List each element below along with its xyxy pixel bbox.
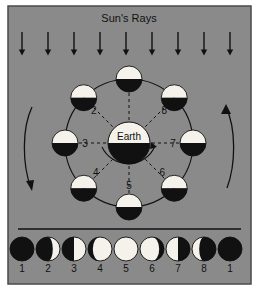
orbit-moon-6	[161, 175, 187, 201]
phase-waxing-gibbous	[88, 237, 112, 261]
orbit-moon-label-7: 7	[170, 138, 176, 149]
diagram-canvas: Sun's RaysEarth2345678123456781	[0, 0, 259, 290]
phase-new-moon	[10, 237, 34, 261]
phase-full-moon	[114, 237, 138, 261]
earth-label: Earth	[117, 131, 141, 142]
suns-rays-title: Sun's Rays	[101, 12, 157, 24]
phase-waning-gibbous	[140, 237, 164, 261]
orbit-moon-label-4: 4	[93, 167, 99, 178]
phase-label-4: 4	[97, 263, 103, 274]
orbit-moon-5	[116, 194, 142, 220]
orbit-moon-3	[52, 130, 78, 156]
phase-label-5: 5	[123, 263, 129, 274]
phase-label-7: 7	[175, 263, 181, 274]
moon-phases-diagram: Sun's RaysEarth2345678123456781	[0, 0, 259, 290]
orbit-moon-label-8: 8	[161, 105, 167, 116]
phase-waxing-crescent	[36, 237, 60, 261]
phase-label-3: 3	[71, 263, 77, 274]
orbit-moon-label-2: 2	[91, 105, 97, 116]
phase-last-quarter	[166, 237, 190, 261]
orbit-moon-1	[116, 66, 142, 92]
phase-label-9: 1	[227, 263, 233, 274]
phase-waning-crescent	[192, 237, 216, 261]
phase-label-2: 2	[45, 263, 51, 274]
phase-new-moon-repeat	[218, 237, 242, 261]
orbit-moon-7	[180, 130, 206, 156]
orbit-moon-label-6: 6	[159, 167, 165, 178]
orbit-moon-label-5: 5	[126, 180, 132, 191]
phase-label-1: 1	[19, 263, 25, 274]
orbit-moon-4	[71, 175, 97, 201]
phase-label-6: 6	[149, 263, 155, 274]
earth-body	[108, 122, 150, 164]
phase-label-8: 8	[201, 263, 207, 274]
orbit-moon-label-3: 3	[82, 138, 88, 149]
phase-first-quarter	[62, 237, 86, 261]
